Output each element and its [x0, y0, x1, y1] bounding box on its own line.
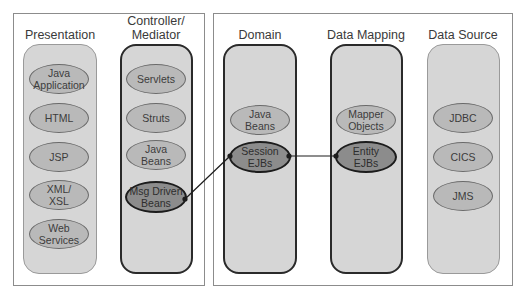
connector-dot-session-left [227, 153, 232, 158]
connector-dot-session-right [286, 153, 291, 158]
connector-endpoints [0, 0, 523, 297]
connector-dot-entity-left [333, 153, 338, 158]
connector-dot-msg-driven [182, 196, 187, 201]
